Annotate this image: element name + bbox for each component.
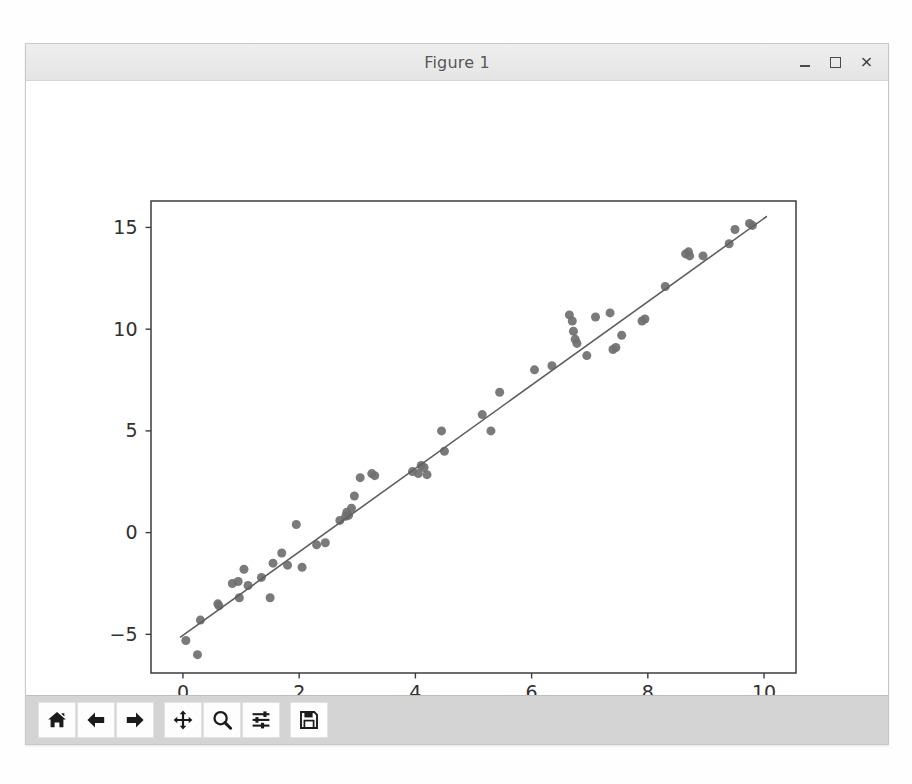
window-titlebar[interactable]: Figure 1 × <box>26 44 888 81</box>
data-point <box>569 327 578 336</box>
data-point <box>582 351 591 360</box>
magnifier-icon <box>211 709 233 731</box>
maximize-button[interactable] <box>828 55 843 70</box>
pan-button[interactable] <box>164 702 202 738</box>
data-point <box>640 315 649 324</box>
y-tick-label: 15 <box>113 216 137 238</box>
arrow-left-icon <box>85 709 107 731</box>
x-tick-label: 10 <box>752 681 776 696</box>
data-point <box>495 388 504 397</box>
data-point <box>292 520 301 529</box>
scatter-plot: 0246810−5051015 <box>26 81 886 695</box>
data-point <box>486 426 495 435</box>
data-point <box>298 563 307 572</box>
configure-subplots-button[interactable] <box>242 702 280 738</box>
forward-button[interactable] <box>116 702 154 738</box>
data-point <box>530 365 539 374</box>
axes-frame <box>151 201 796 673</box>
data-point <box>193 650 202 659</box>
x-tick-label: 4 <box>409 681 421 696</box>
y-tick-label: −5 <box>109 623 137 645</box>
data-point <box>606 308 615 317</box>
data-point <box>437 426 446 435</box>
arrow-right-icon <box>124 709 146 731</box>
screen: { "window": { "title": "Figure 1", "cont… <box>0 0 912 784</box>
data-point <box>572 339 581 348</box>
data-point <box>591 312 600 321</box>
data-point <box>181 636 190 645</box>
data-point <box>370 471 379 480</box>
x-tick-label: 8 <box>642 681 654 696</box>
move-cross-icon <box>172 709 194 731</box>
data-point <box>423 470 432 479</box>
window-title: Figure 1 <box>424 53 490 72</box>
fit-line <box>180 216 767 637</box>
toolbar-separator <box>155 703 164 737</box>
floppy-disk-icon <box>298 709 320 731</box>
save-button[interactable] <box>290 702 328 738</box>
x-tick-label: 0 <box>177 681 189 696</box>
data-point <box>234 577 243 586</box>
toolbar-separator-2 <box>281 703 290 737</box>
data-point <box>611 343 620 352</box>
window-controls: × <box>797 44 874 80</box>
data-point <box>617 331 626 340</box>
data-point <box>266 593 275 602</box>
data-point <box>685 251 694 260</box>
data-point <box>239 565 248 574</box>
data-point <box>269 559 278 568</box>
figure-window: Figure 1 × 0246810−5051015 <box>25 43 889 745</box>
x-tick-label: 6 <box>526 681 538 696</box>
data-point <box>321 538 330 547</box>
home-button[interactable] <box>38 702 76 738</box>
y-tick-label: 5 <box>125 419 137 441</box>
zoom-button[interactable] <box>203 702 241 738</box>
data-point <box>568 317 577 326</box>
sliders-icon <box>250 709 272 731</box>
y-tick-label: 10 <box>113 318 137 340</box>
data-point <box>277 548 286 557</box>
close-button[interactable]: × <box>859 55 874 70</box>
y-tick-label: 0 <box>125 521 137 543</box>
x-tick-label: 2 <box>293 681 305 696</box>
data-point <box>356 473 365 482</box>
navigation-toolbar <box>26 695 888 744</box>
back-button[interactable] <box>77 702 115 738</box>
data-point <box>350 492 359 501</box>
data-point <box>730 225 739 234</box>
minimize-button[interactable] <box>797 55 812 70</box>
home-icon <box>46 709 68 731</box>
figure-canvas[interactable]: 0246810−5051015 <box>26 81 888 695</box>
